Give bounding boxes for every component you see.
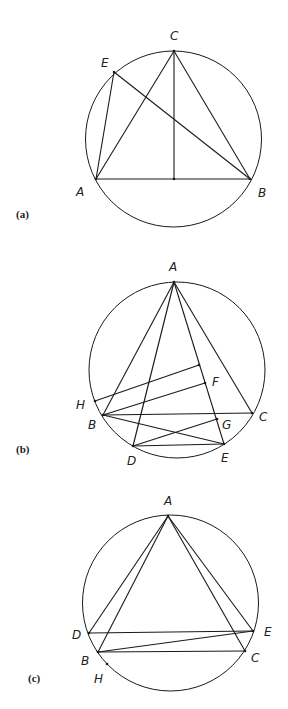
segment-BE <box>103 415 224 444</box>
segment-AD <box>89 516 168 633</box>
point-label: E <box>264 625 272 639</box>
point-H <box>94 400 97 403</box>
panel-a: CEAB(a) <box>16 29 266 227</box>
point-label: G <box>222 418 231 432</box>
panel-caption: (b) <box>16 443 30 456</box>
point-A <box>167 515 170 518</box>
point-label: B <box>81 654 89 668</box>
point-A <box>173 281 176 284</box>
point-B <box>249 178 252 181</box>
point-C <box>251 412 254 415</box>
point-label: H <box>94 672 103 686</box>
point-label: A <box>75 185 84 199</box>
point-E <box>113 71 116 74</box>
segment-HP <box>95 365 199 401</box>
segment-BC <box>103 413 252 415</box>
point-label: D <box>127 454 136 468</box>
point-C <box>173 50 176 53</box>
segment-DE <box>133 444 224 446</box>
segment-BF <box>103 383 205 415</box>
point-F <box>173 178 176 181</box>
point-E <box>252 630 255 633</box>
point-label: A <box>163 494 172 508</box>
segment-AC <box>96 51 174 179</box>
point-label: H <box>76 398 85 412</box>
panel-caption: (c) <box>28 672 41 685</box>
point-D <box>88 632 91 635</box>
point-label: B <box>258 186 266 200</box>
point-E <box>223 443 226 446</box>
segment-BC <box>98 651 245 652</box>
segment-BC <box>174 51 250 179</box>
segment-EB <box>114 72 250 179</box>
point-label: B <box>88 418 96 432</box>
point-label: D <box>72 628 81 642</box>
segment-DG <box>133 419 217 446</box>
segment-AE <box>96 72 114 179</box>
segment-DE <box>89 631 253 633</box>
segment-AB <box>98 516 168 652</box>
point-label: E <box>101 56 109 70</box>
point-B <box>102 414 105 417</box>
point-B <box>97 651 100 654</box>
panel-c: ADEBCH(c) <box>28 494 272 691</box>
point-label: C <box>259 410 268 424</box>
segment-AE <box>168 516 253 631</box>
point-P <box>198 364 201 367</box>
point-label: C <box>251 651 260 665</box>
segment-BE <box>98 631 253 652</box>
point-A <box>95 178 98 181</box>
segment-AC <box>174 282 252 413</box>
point-F <box>204 382 207 385</box>
point-label: E <box>221 451 229 465</box>
segment-AD <box>133 282 174 446</box>
panel-caption: (a) <box>16 208 29 221</box>
point-label: F <box>212 375 220 389</box>
point-label: A <box>168 260 177 274</box>
panel-b: AFHCBGDE(b) <box>16 260 268 468</box>
point-label: C <box>170 29 179 43</box>
point-D <box>132 445 135 448</box>
point-C <box>244 650 247 653</box>
point-H <box>106 663 109 666</box>
geometry-figure: CEAB(a) AFHCBGDE(b) ADEBCH(c) <box>0 0 288 709</box>
point-G <box>216 418 219 421</box>
